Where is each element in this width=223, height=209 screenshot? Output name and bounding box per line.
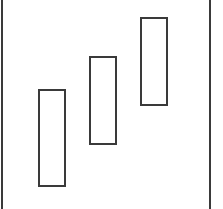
frame-right-line: [209, 0, 211, 209]
rectangle-3: [140, 17, 168, 106]
rectangle-1: [38, 89, 66, 187]
rectangle-2: [89, 56, 117, 145]
frame-left-line: [1, 0, 3, 209]
diagram-canvas: [0, 0, 223, 209]
